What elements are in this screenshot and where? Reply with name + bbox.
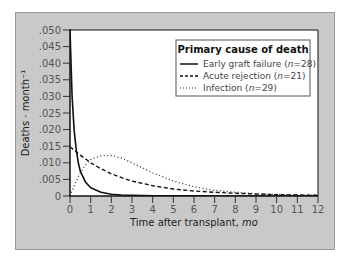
x-axis-title-unit: mo	[242, 217, 258, 228]
x-ticks: 0123456789101112	[67, 196, 325, 215]
y-tick-label: .050	[39, 25, 61, 36]
x-tick-label: 3	[129, 204, 135, 215]
line-chart: 0.005.010.015.020.025.030.035.040.045.05…	[0, 0, 352, 259]
x-axis-title: Time after transplant, mo	[129, 217, 258, 228]
x-tick-label: 9	[253, 204, 259, 215]
y-tick-label: .020	[39, 124, 61, 135]
y-tick-label: .030	[39, 91, 61, 102]
x-tick-label: 7	[211, 204, 217, 215]
legend-item-acute-rejection: Acute rejection (n=21)	[203, 71, 305, 81]
legend-n-value: =28)	[293, 59, 316, 69]
x-tick-label: 11	[291, 204, 304, 215]
x-axis-title-text: Time after transplant,	[129, 217, 242, 228]
y-tick-label: .005	[39, 174, 61, 185]
legend-item-infection: Infection (n=29)	[203, 83, 277, 93]
y-tick-label: .040	[39, 58, 61, 69]
y-axis-title: Deaths · month⁻¹	[20, 70, 31, 157]
x-tick-label: 4	[149, 204, 155, 215]
y-tick-label: .015	[39, 141, 61, 152]
legend-item-early-graft-failure: Early graft failure (n=28)	[203, 59, 316, 69]
x-tick-label: 12	[312, 204, 325, 215]
y-tick-label: .025	[39, 108, 61, 119]
legend-n-value: =29)	[254, 83, 277, 93]
y-ticks: 0.005.010.015.020.025.030.035.040.045.05…	[39, 25, 70, 202]
y-tick-label: .045	[39, 41, 61, 52]
legend-label: Infection (	[203, 83, 249, 93]
y-tick-label: .035	[39, 74, 61, 85]
legend-n-value: =21)	[283, 71, 306, 81]
legend-label: Acute rejection (	[203, 71, 277, 81]
x-tick-label: 5	[170, 204, 176, 215]
legend-label: Early graft failure (	[203, 59, 288, 69]
x-tick-label: 10	[270, 204, 283, 215]
y-tick-label: .010	[39, 157, 61, 168]
legend: Primary cause of death Early graft failu…	[176, 40, 316, 96]
x-tick-label: 1	[87, 204, 93, 215]
x-tick-label: 6	[191, 204, 197, 215]
x-tick-label: 8	[232, 204, 238, 215]
x-tick-label: 0	[67, 204, 73, 215]
legend-title: Primary cause of death	[177, 44, 308, 55]
x-tick-label: 2	[108, 204, 114, 215]
y-tick-label: 0	[55, 191, 61, 202]
